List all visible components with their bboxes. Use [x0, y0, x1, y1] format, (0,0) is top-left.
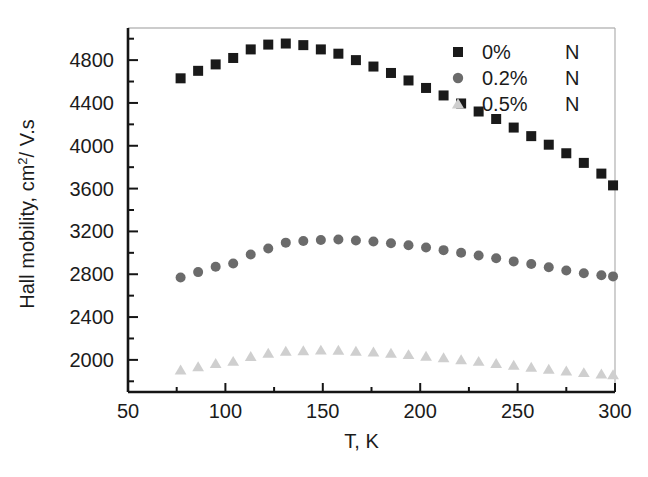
y-axis-tick-labels: 20002400280032003600400044004800	[70, 49, 115, 371]
marker-circle	[386, 238, 396, 248]
marker-circle	[333, 234, 343, 244]
legend-suffix: N	[565, 41, 579, 63]
marker-square	[404, 75, 414, 85]
marker-triangle	[543, 364, 555, 374]
marker-triangle	[595, 368, 607, 378]
marker-square	[491, 114, 501, 124]
marker-square	[333, 49, 343, 59]
y-tick-label: 4000	[70, 135, 115, 157]
marker-circle	[608, 271, 618, 281]
marker-circle	[263, 244, 273, 254]
marker-circle	[421, 242, 431, 252]
marker-square	[608, 180, 618, 190]
marker-triangle	[175, 364, 187, 374]
marker-square	[368, 62, 378, 72]
x-axis-ticks	[128, 383, 615, 392]
marker-triangle	[245, 351, 257, 361]
marker-circle	[456, 248, 466, 258]
y-tick-label: 2800	[70, 263, 115, 285]
legend-label: 0%	[482, 41, 511, 63]
x-tick-label: 250	[501, 400, 534, 422]
marker-circle	[596, 270, 606, 280]
marker-triangle	[473, 356, 485, 366]
y-axis-ticks	[128, 39, 138, 382]
marker-circle	[491, 253, 501, 263]
marker-triangle	[508, 360, 520, 370]
legend-suffix: N	[565, 67, 579, 89]
x-axis-tick-labels: 50100150200250300	[117, 400, 632, 422]
marker-triangle	[607, 369, 619, 379]
legend-entry-0[interactable]: 0%N	[453, 41, 579, 63]
marker-square	[316, 44, 326, 54]
marker-square	[596, 169, 606, 179]
marker-square	[176, 73, 186, 83]
legend-entry-02[interactable]: 0.2%N	[453, 67, 580, 89]
legend-label: 0.2%	[482, 67, 528, 89]
legend-marker-square	[453, 47, 463, 57]
marker-square	[211, 59, 221, 69]
marker-triangle	[490, 358, 502, 368]
chart-figure: 50100150200250300 2000240028003200360040…	[0, 0, 648, 477]
marker-triangle	[438, 352, 450, 362]
marker-square	[579, 158, 589, 168]
y-axis-title-text: Hall mobility, cm2/ V.s	[15, 119, 38, 309]
x-tick-label: 150	[306, 400, 339, 422]
marker-triangle	[560, 366, 572, 376]
marker-triangle	[315, 345, 327, 355]
marker-circle	[211, 262, 221, 272]
marker-circle	[561, 265, 571, 275]
marker-circle	[351, 236, 361, 246]
marker-square	[228, 53, 238, 63]
hall-mobility-scatter-chart: 50100150200250300 2000240028003200360040…	[0, 0, 648, 477]
marker-square	[298, 40, 308, 50]
marker-circle	[316, 235, 326, 245]
marker-triangle	[455, 354, 467, 364]
legend-marker-circle	[453, 73, 463, 83]
legend-label: 0.5%	[482, 93, 528, 115]
x-tick-label: 50	[117, 400, 139, 422]
chart-legend: 0%N0.2%N0.5%N	[452, 41, 580, 115]
marker-triangle	[333, 345, 345, 355]
x-tick-label: 300	[598, 400, 631, 422]
y-tick-label: 2000	[70, 349, 115, 371]
series-0-points	[176, 39, 618, 191]
marker-circle	[579, 268, 589, 278]
marker-triangle	[578, 367, 590, 377]
marker-square	[246, 44, 256, 54]
marker-circle	[526, 259, 536, 269]
marker-circle	[228, 259, 238, 269]
y-tick-label: 3200	[70, 220, 115, 242]
marker-square	[386, 68, 396, 78]
marker-triangle	[262, 348, 274, 358]
y-tick-label: 2400	[70, 306, 115, 328]
marker-triangle	[403, 349, 415, 359]
marker-triangle	[192, 361, 204, 371]
series-02-points	[176, 234, 618, 282]
marker-triangle	[350, 346, 362, 356]
marker-square	[509, 123, 519, 133]
marker-triangle	[280, 346, 292, 356]
data-point-layer	[175, 39, 619, 380]
marker-square	[439, 90, 449, 100]
marker-circle	[298, 236, 308, 246]
marker-circle	[439, 245, 449, 255]
x-tick-label: 100	[209, 400, 242, 422]
marker-square	[526, 131, 536, 141]
y-tick-label: 4800	[70, 49, 115, 71]
marker-triangle	[297, 345, 309, 355]
marker-triangle	[385, 348, 397, 358]
marker-square	[544, 140, 554, 150]
marker-triangle	[420, 351, 432, 361]
marker-triangle	[210, 358, 222, 368]
y-axis-title: Hall mobility, cm2/ V.s	[15, 119, 38, 309]
marker-square	[281, 39, 291, 49]
marker-square	[351, 55, 361, 65]
legend-entry-05[interactable]: 0.5%N	[452, 93, 580, 115]
marker-square	[561, 148, 571, 158]
plot-frame	[128, 28, 615, 392]
x-tick-label: 200	[404, 400, 437, 422]
marker-circle	[474, 251, 484, 261]
legend-suffix: N	[565, 93, 579, 115]
marker-circle	[176, 272, 186, 282]
marker-triangle	[227, 356, 239, 366]
